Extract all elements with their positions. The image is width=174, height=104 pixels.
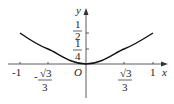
x-tick-pos-sqrt3-den: 3 xyxy=(122,81,128,93)
y-tick-quarter-den: 4 xyxy=(75,50,81,62)
y-tick-quarter-num: 1 xyxy=(75,37,81,49)
y-axis-label: y xyxy=(75,4,81,16)
x-axis-label: x xyxy=(161,66,167,78)
x-tick-neg-one: -1 xyxy=(12,66,21,78)
x-tick-neg-sqrt3-sign: - xyxy=(34,70,38,82)
x-tick-neg-sqrt3-num: √3 xyxy=(40,67,52,79)
x-tick-neg-sqrt3-den: 3 xyxy=(42,81,48,93)
y-tick-half-num: 1 xyxy=(75,18,81,30)
x-tick-one: 1 xyxy=(150,66,156,78)
function-curve xyxy=(20,33,153,64)
function-graph: y x O 1 2 1 4 -1 1 - √3 3 √3 3 xyxy=(0,0,174,104)
x-tick-pos-sqrt3-num: √3 xyxy=(120,67,132,79)
ticks xyxy=(20,33,153,64)
origin-label: O xyxy=(74,66,82,78)
y-axis-arrow-icon xyxy=(84,8,89,15)
